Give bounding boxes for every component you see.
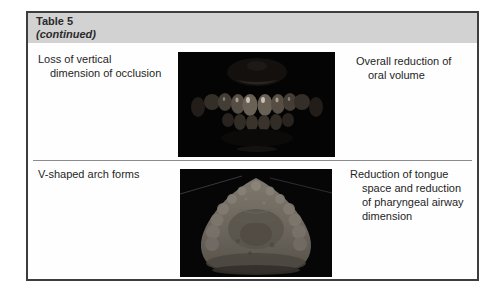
finding-line: V-shaped arch forms [38,167,140,181]
consequence-line: dimension [350,209,464,223]
finding-text-row2: V-shaped arch forms [38,167,140,181]
consequence-text-row1: Overall reduction of oral volume [356,54,451,82]
consequence-line: of pharyngeal airway [350,195,464,209]
table-5-frame: Table 5 (continued) Loss of vertical dim… [26,11,479,281]
consequence-line: oral volume [356,68,451,82]
table-header: Table 5 (continued) [28,13,477,43]
finding-text-row1: Loss of vertical dimension of occlusion [38,52,161,80]
row-divider [33,160,472,161]
dental-cast-photo [180,169,332,277]
consequence-line: space and reduction [350,181,464,195]
consequence-line: Overall reduction of [356,54,451,68]
intraoral-occlusion-photo [178,52,335,157]
dental-cast-illustration [180,169,332,277]
table-subtitle: (continued) [36,28,477,41]
consequence-line: Reduction of tongue [350,167,464,181]
table-title: Table 5 [36,15,477,28]
finding-line: Loss of vertical [38,52,161,66]
intraoral-photo-illustration [178,52,335,157]
consequence-text-row2: Reduction of tongue space and reduction … [350,167,464,223]
finding-line: dimension of occlusion [38,66,161,80]
page: Table 5 (continued) Loss of vertical dim… [0,0,497,292]
